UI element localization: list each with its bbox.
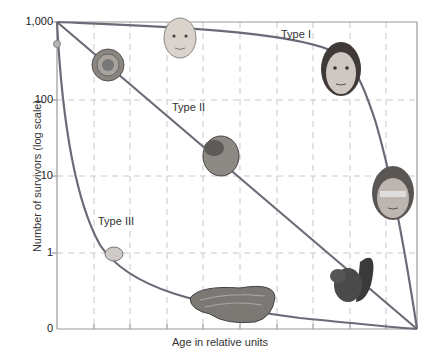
baby-face-icon (164, 18, 196, 58)
larva-icon (105, 247, 123, 261)
elderly-face-icon (372, 166, 414, 220)
illustrations (54, 18, 415, 323)
plot-area (0, 0, 437, 357)
marker-dot-icon (54, 41, 61, 48)
young-squirrel-icon (203, 136, 239, 176)
y-tick-1000: 1,000 (25, 16, 53, 27)
x-axis-label: Age in relative units (140, 336, 300, 348)
oyster-icon (190, 286, 275, 322)
type2-label: Type II (172, 101, 205, 113)
egg-icon (92, 49, 124, 81)
squirrel-icon (330, 258, 374, 302)
survivorship-chart: 1,000 100 10 1 0 Number of survivors (lo… (0, 0, 437, 357)
adult-face-icon (321, 42, 361, 96)
type3-label: Type III (98, 215, 134, 227)
type1-label: Type I (281, 28, 311, 40)
y-tick-0: 0 (47, 323, 53, 334)
y-axis-label: Number of survivors (log scale) (31, 91, 43, 261)
y-tick-1: 1 (47, 247, 53, 258)
